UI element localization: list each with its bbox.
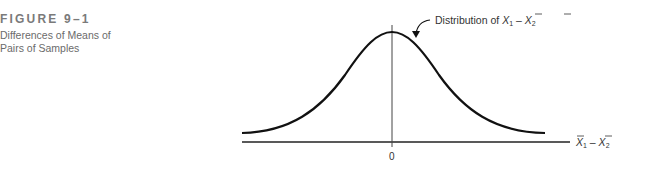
annotation-label: Distribution of X1 – X2	[435, 14, 536, 27]
axis-label: X1 – X2	[575, 136, 610, 149]
zero-tick-label: 0	[389, 151, 395, 162]
normal-curve	[242, 32, 545, 133]
distribution-diagram: Distribution of X1 – X2 0 X1 – X2	[0, 0, 654, 172]
arrow-head-icon	[412, 31, 420, 38]
